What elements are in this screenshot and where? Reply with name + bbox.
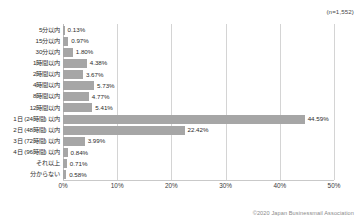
bar [63,137,85,146]
bar-row: 3日 (72時間) 以内3.99% [0,135,360,146]
bar-track: 5.73% [63,80,360,91]
bar-row: 分からない0.58% [0,169,360,180]
plot-area: 5分以内0.13%15分以内0.97%30分以内1.80%1時間以内4.38%2… [0,24,360,180]
bar-row: 12時間以内5.41% [0,102,360,113]
bar-track: 3.99% [63,135,360,146]
bar-row: 4日 (96時間) 以内0.84% [0,147,360,158]
bar [63,126,185,135]
bar [63,92,89,101]
bar-row: 5分以内0.13% [0,24,360,35]
sample-size-annotation: (n=1,552) [326,8,354,15]
x-tick-label: 0% [58,182,67,189]
bar-row: それ以上0.71% [0,158,360,169]
bar-track: 0.97% [63,35,360,46]
bar [63,115,305,124]
bar-row: 30分以内1.80% [0,46,360,57]
category-label: 分からない [0,168,60,180]
chart-root: (n=1,552) 5分以内0.13%15分以内0.97%30分以内1.80%1… [0,0,360,220]
bar-track: 0.71% [63,158,360,169]
bar-track: 5.41% [63,102,360,113]
x-tick-label: 40% [273,182,286,189]
bar-row: 2日 (48時間) 以内22.42% [0,124,360,135]
bar-track: 0.58% [63,169,360,180]
bar-track: 4.38% [63,57,360,68]
bar [63,81,94,90]
bar [63,48,73,57]
bar-row: 8時間以内4.77% [0,91,360,102]
bar-track: 0.84% [63,147,360,158]
bar-row: 1日 (24時間) 以内44.59% [0,113,360,124]
bar-row: 15分以内0.97% [0,35,360,46]
bar-row: 1時間以内4.38% [0,57,360,68]
bar-row: 4時間以内5.73% [0,80,360,91]
bar-track: 0.13% [63,24,360,35]
bar [63,70,83,79]
bar-track: 44.59% [63,113,360,124]
bar-track: 22.42% [63,124,360,135]
bar-rows: 5分以内0.13%15分以内0.97%30分以内1.80%1時間以内4.38%2… [0,24,360,180]
x-axis-line [63,180,334,181]
x-tick-label: 50% [328,182,341,189]
x-tick-label: 30% [219,182,232,189]
bar [63,103,92,112]
x-tick-label: 10% [111,182,124,189]
x-axis: 0%10%20%30%40%50% [0,180,360,194]
bar-track: 1.80% [63,46,360,57]
bar-track: 3.67% [63,69,360,80]
x-tick-label: 20% [165,182,178,189]
bar-track: 4.77% [63,91,360,102]
bar-row: 2時間以内3.67% [0,69,360,80]
bar [63,59,87,68]
copyright-footer: ©2020 Japan Businessmail Association [253,210,354,216]
